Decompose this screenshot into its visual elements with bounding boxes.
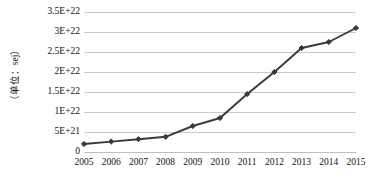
y-axis-tick-label: 5E+21 [18, 127, 80, 137]
y-axis-tick-label: 2.5E+22 [18, 47, 80, 57]
plot-area [84, 12, 356, 152]
y-axis-tick-label: 3.5E+22 [18, 7, 80, 17]
y-axis-tick-labels: 05E+211E+221.5E+222E+222.5E+223E+223.5E+… [18, 0, 80, 152]
y-axis-tick-label: 2E+22 [18, 67, 80, 77]
data-point-marker [190, 123, 195, 128]
y-axis-tick-label: 1.5E+22 [18, 87, 80, 97]
data-point-marker [163, 134, 168, 139]
x-axis-tick-label: 2015 [336, 156, 370, 168]
y-axis-tick-label: 3E+22 [18, 27, 80, 37]
series-line [84, 28, 356, 144]
x-axis-tick-labels: 2005200620072008200920102011201220132014… [84, 156, 356, 172]
y-axis-tick-label: 1E+22 [18, 107, 80, 117]
data-series [84, 12, 356, 152]
data-point-marker [81, 141, 86, 146]
gridline [84, 152, 356, 153]
data-point-marker [109, 139, 114, 144]
data-point-marker [136, 137, 141, 142]
